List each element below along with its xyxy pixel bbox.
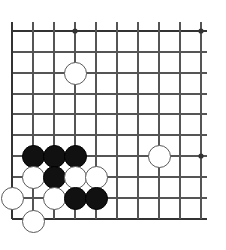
white-stone[interactable] [85, 166, 108, 189]
white-stone[interactable] [22, 166, 45, 189]
black-stone[interactable] [64, 145, 87, 168]
white-stone[interactable] [148, 145, 171, 168]
white-stone[interactable] [1, 187, 24, 210]
black-stone[interactable] [22, 145, 45, 168]
black-stone[interactable] [43, 166, 66, 189]
white-stone[interactable] [22, 210, 45, 233]
white-stone[interactable] [43, 187, 66, 210]
white-stone[interactable] [64, 62, 87, 85]
black-stone[interactable] [64, 187, 87, 210]
go-board-container[interactable] [0, 0, 226, 250]
black-stone[interactable] [85, 187, 108, 210]
black-stone[interactable] [43, 145, 66, 168]
star-point [198, 153, 203, 158]
white-stone[interactable] [64, 166, 87, 189]
star-point [72, 28, 77, 33]
star-point [198, 28, 203, 33]
